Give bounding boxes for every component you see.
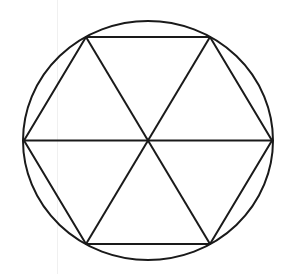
hexagon-diagonals [24, 37, 272, 244]
inscribed-hexagon-diagram [0, 0, 283, 274]
